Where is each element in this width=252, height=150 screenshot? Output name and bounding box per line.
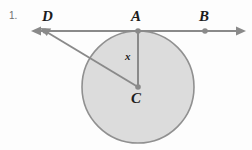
- point-label-C: C: [131, 91, 141, 106]
- geometry-diagram-svg: [0, 0, 252, 150]
- variable-label-x: x: [125, 51, 131, 62]
- point-label-A: A: [131, 9, 141, 24]
- point-A-dot: [135, 28, 141, 34]
- geometry-figure-canvas: 1. D A B C x: [0, 0, 252, 150]
- point-D-dot: [42, 28, 47, 33]
- tangent-line-left-arrowhead: [31, 27, 41, 36]
- point-label-D: D: [42, 9, 53, 24]
- problem-number: 1.: [9, 11, 17, 21]
- point-C-dot: [135, 84, 141, 90]
- tangent-line-right-arrowhead: [236, 27, 246, 36]
- point-B-dot: [202, 28, 208, 34]
- point-label-B: B: [199, 9, 209, 24]
